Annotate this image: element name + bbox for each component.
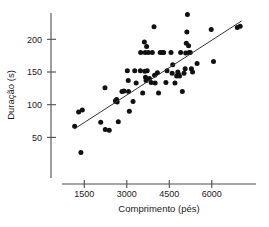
data-point: [169, 50, 174, 55]
data-point: [183, 66, 188, 71]
data-point: [163, 80, 168, 85]
data-points-layer: [72, 12, 242, 155]
data-point: [178, 50, 183, 55]
data-point: [150, 50, 155, 55]
y-tick-label: 100: [27, 100, 42, 110]
data-point: [161, 50, 166, 55]
data-point: [138, 50, 143, 55]
data-point: [172, 81, 177, 86]
data-point: [98, 120, 103, 125]
data-point: [180, 89, 185, 94]
data-point: [182, 71, 187, 76]
y-axis-title: Duração (s): [5, 70, 16, 120]
data-point: [78, 150, 83, 155]
data-point: [127, 109, 132, 114]
data-point: [186, 43, 191, 48]
data-point: [211, 59, 216, 64]
data-point: [102, 85, 107, 90]
data-point: [80, 107, 85, 112]
data-point: [170, 71, 175, 76]
scatter-plot-figure: 50100150200 1500300045006000 Comprimento…: [0, 0, 269, 227]
y-tick-label: 150: [27, 67, 42, 77]
data-point: [238, 24, 243, 29]
data-point: [153, 81, 158, 86]
x-tick-label: 1500: [74, 189, 94, 199]
plot-canvas: 50100150200 1500300045006000 Comprimento…: [0, 0, 269, 227]
data-point: [125, 68, 130, 73]
data-point: [152, 24, 157, 29]
data-point: [209, 27, 214, 32]
data-point: [116, 119, 121, 124]
data-point: [132, 68, 137, 73]
data-point: [138, 68, 143, 73]
data-point: [185, 12, 190, 17]
y-tick-group: 50100150200: [27, 35, 56, 143]
data-point: [144, 44, 149, 49]
data-point: [190, 70, 195, 75]
data-point: [142, 39, 147, 44]
y-tick-label: 50: [32, 133, 42, 143]
y-tick-label: 200: [27, 35, 42, 45]
data-point: [177, 73, 182, 78]
x-tick-label: 6000: [202, 189, 222, 199]
data-point: [156, 90, 161, 95]
data-point: [145, 68, 150, 73]
data-point: [134, 81, 139, 86]
data-point: [131, 99, 136, 104]
data-point: [107, 128, 112, 133]
regression-trendline: [74, 21, 241, 129]
data-point: [126, 78, 131, 83]
data-point: [184, 30, 189, 35]
x-tick-label: 3000: [117, 189, 137, 199]
y-axis: 50100150200: [27, 13, 56, 178]
x-axis-title: Comprimento (pés): [118, 203, 199, 214]
data-point: [195, 61, 200, 66]
data-point: [121, 88, 126, 93]
x-tick-label: 4500: [159, 189, 179, 199]
x-tick-group: 1500300045006000: [74, 180, 222, 199]
x-axis: 1500300045006000: [62, 180, 256, 199]
data-point: [140, 90, 145, 95]
